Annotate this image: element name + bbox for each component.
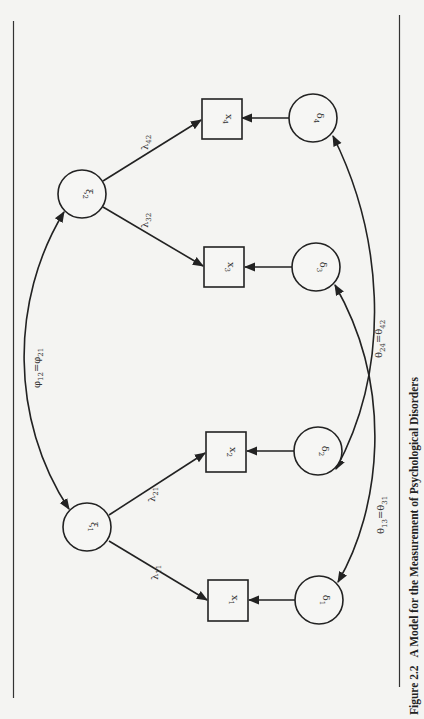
covariance-label-phi: φ12=φ21	[31, 348, 45, 388]
observed-box-x4: x4	[202, 99, 242, 139]
observed-box-x2: x2	[206, 432, 246, 472]
latent-node-xi1: ξ1	[63, 503, 111, 551]
loading-label-l42: λ42	[139, 135, 153, 150]
theta24-covariance-arc	[333, 136, 375, 469]
observed-box-x1: x1	[208, 580, 248, 621]
loading-xi2-x4	[103, 120, 201, 181]
error-node-d3: δ3	[292, 243, 340, 291]
figure-caption: Figure 2.2A Model for the Measurement of…	[408, 377, 421, 715]
path-diagram: ξ2 ξ1 x4 x3 x2 x1 δ4 δ3 δ2 δ1 λ42 λ32 λ2…	[0, 0, 424, 719]
latent-node-xi2: ξ2	[58, 170, 106, 218]
error-node-d2: δ2	[294, 427, 342, 475]
error-node-d1: δ1	[295, 576, 343, 624]
error-node-d4: δ4	[289, 94, 337, 142]
theta13-covariance-arc	[335, 285, 375, 582]
loading-xi1-x2	[109, 453, 205, 515]
observed-box-x3: x3	[204, 247, 244, 287]
loading-label-l32: λ32	[139, 213, 153, 228]
covariance-label-theta13: θ13=θ31	[375, 496, 389, 534]
loading-xi2-x3	[103, 207, 203, 266]
